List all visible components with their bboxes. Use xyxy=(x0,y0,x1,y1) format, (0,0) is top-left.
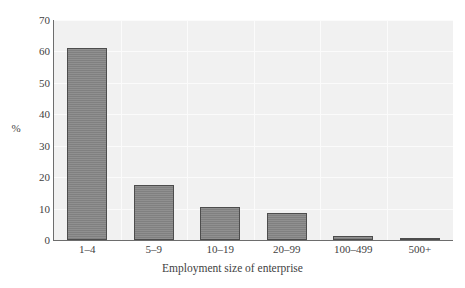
y-axis-tick-label: 0 xyxy=(6,235,50,245)
bar-chart-figure: % 010203040506070 1–45–910–1920–99100–49… xyxy=(0,0,465,288)
y-axis-tick-label: 40 xyxy=(6,109,50,119)
y-axis-tick-label: 60 xyxy=(6,46,50,56)
bar xyxy=(67,48,107,240)
bar xyxy=(200,207,240,240)
bar xyxy=(267,213,307,240)
y-axis-tick-label: 20 xyxy=(6,172,50,182)
bar xyxy=(134,185,174,240)
x-axis-line xyxy=(53,240,453,241)
y-axis-title: % xyxy=(6,122,26,134)
x-axis-tick-label: 500+ xyxy=(380,243,460,255)
gridline-vertical xyxy=(387,20,388,240)
y-axis-tick-label: 10 xyxy=(6,204,50,214)
x-axis-title: Employment size of enterprise xyxy=(0,262,465,274)
plot-area xyxy=(54,20,453,240)
y-axis-tick-label: 70 xyxy=(6,15,50,25)
gridline-vertical xyxy=(320,20,321,240)
gridline-vertical xyxy=(187,20,188,240)
gridline-vertical xyxy=(121,20,122,240)
y-axis-tick-label: 50 xyxy=(6,78,50,88)
y-axis-tick-label: 30 xyxy=(6,141,50,151)
gridline-vertical xyxy=(254,20,255,240)
